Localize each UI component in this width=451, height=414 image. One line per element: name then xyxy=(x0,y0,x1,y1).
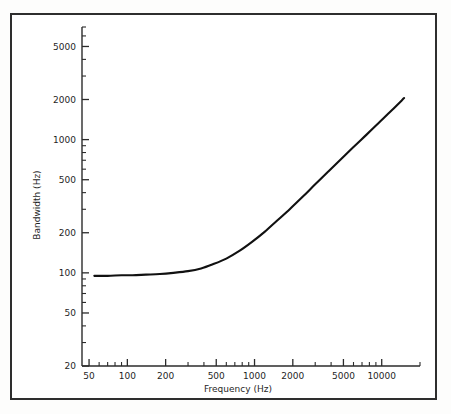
x-tick-label-500: 500 xyxy=(208,371,225,381)
y-tick-label-5000: 5000 xyxy=(53,42,76,52)
y-tick-label-100: 100 xyxy=(59,268,76,278)
y-tick-label-2000: 2000 xyxy=(53,95,76,105)
x-axis-tick-labels: 5010020050010002000500010000 xyxy=(83,371,396,381)
axes-group xyxy=(82,27,420,366)
y-axis-tick-labels: 2050100200500100020005000 xyxy=(53,42,76,372)
y-tick-label-1000: 1000 xyxy=(53,135,76,145)
bandwidth-curve xyxy=(94,98,404,276)
y-tick-label-200: 200 xyxy=(59,228,76,238)
chart-canvas: 2050100200500100020005000 50100200500100… xyxy=(0,0,451,414)
y-axis-major-ticks xyxy=(82,46,89,366)
y-tick-label-50: 50 xyxy=(65,308,77,318)
x-tick-label-2000: 2000 xyxy=(281,371,304,381)
y-tick-label-500: 500 xyxy=(59,175,76,185)
x-axis-title: Frequency (Hz) xyxy=(204,384,272,394)
x-tick-label-100: 100 xyxy=(119,371,136,381)
x-tick-label-50: 50 xyxy=(83,371,95,381)
y-tick-label-20: 20 xyxy=(65,361,77,371)
x-tick-label-1000: 1000 xyxy=(243,371,266,381)
y-axis-title: Bandwidth (Hz) xyxy=(32,170,42,239)
x-tick-label-5000: 5000 xyxy=(332,371,355,381)
x-tick-label-200: 200 xyxy=(157,371,174,381)
figure-root: 2050100200500100020005000 50100200500100… xyxy=(0,0,451,414)
x-tick-label-10000: 10000 xyxy=(367,371,396,381)
x-axis-major-ticks xyxy=(89,359,382,366)
